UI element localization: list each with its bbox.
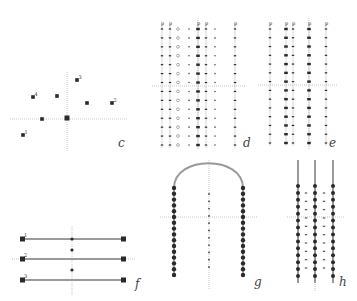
tick-marker [234, 144, 236, 145]
point-tag: 2 [114, 97, 117, 103]
tick-marker [196, 117, 200, 119]
bead [172, 244, 176, 248]
tick-marker [205, 109, 207, 110]
tick-marker [161, 127, 163, 128]
dot-marker [188, 144, 190, 146]
dot-marker [214, 91, 216, 93]
tick-marker [307, 37, 311, 39]
bead [241, 250, 245, 254]
tick-marker [307, 80, 311, 82]
tick-marker [234, 64, 236, 65]
bead [296, 232, 300, 236]
point-tag: p [292, 20, 295, 27]
tick-marker [269, 81, 271, 82]
center-dot [208, 266, 210, 268]
ring-marker [177, 63, 180, 66]
dot-marker [214, 37, 216, 39]
between-marker [305, 251, 307, 252]
dot-marker [188, 100, 190, 102]
tick-marker [307, 107, 311, 109]
bead [172, 273, 176, 277]
tick-marker [292, 72, 294, 73]
tick-marker [205, 28, 207, 29]
between-marker [323, 259, 325, 260]
ring-marker [177, 37, 180, 40]
tick-marker [284, 142, 288, 144]
tick-marker [196, 108, 200, 110]
tick-marker [169, 91, 171, 92]
tick-marker [284, 98, 288, 100]
point-tag: p [161, 20, 164, 27]
bead [241, 209, 245, 213]
dot-marker [214, 46, 216, 48]
tick-marker [205, 118, 207, 119]
panel-label-f: f [134, 277, 142, 291]
bead [296, 191, 300, 195]
dot-marker [188, 82, 190, 84]
rod-end-right [121, 278, 126, 283]
tick-marker [292, 55, 294, 56]
particle-marker [40, 117, 44, 121]
bead [313, 260, 317, 264]
tick-marker [205, 64, 207, 65]
tick-marker [284, 89, 288, 91]
tick-marker [325, 107, 327, 108]
bead [313, 253, 317, 257]
tick-marker [269, 90, 271, 91]
particle-marker [85, 101, 89, 105]
tick-marker [196, 126, 200, 128]
dot-marker [214, 100, 216, 102]
tick-marker [234, 100, 236, 101]
bead [296, 184, 300, 188]
tick-marker [205, 144, 207, 145]
between-marker [305, 242, 307, 243]
tick-marker [196, 90, 200, 92]
bead [313, 205, 317, 209]
bead [172, 186, 176, 190]
between-marker [305, 259, 307, 260]
tick-marker [169, 55, 171, 56]
bead [172, 250, 176, 254]
tick-marker [196, 28, 200, 30]
tick-marker [234, 73, 236, 74]
tick-marker [205, 37, 207, 38]
dot-marker [214, 117, 216, 119]
dot-marker [188, 46, 190, 48]
tick-marker [307, 28, 311, 30]
dot-marker [188, 91, 190, 93]
bead [331, 232, 335, 236]
bead [331, 219, 335, 223]
tick-marker [169, 100, 171, 101]
point-tag: 2 [24, 252, 27, 258]
ring-marker [177, 81, 180, 84]
tick-marker [307, 63, 311, 65]
tick-marker [205, 127, 207, 128]
dot-marker [214, 126, 216, 128]
center-dot [70, 268, 73, 271]
dot-marker [214, 135, 216, 137]
tick-marker [269, 55, 271, 56]
tick-marker [325, 72, 327, 73]
center-dot [208, 193, 210, 195]
bead [241, 244, 245, 248]
center-dot [208, 237, 210, 239]
tick-marker [269, 37, 271, 38]
tick-marker [161, 64, 163, 65]
rod-end-right [121, 237, 126, 242]
center-dot [208, 215, 210, 217]
bead [331, 260, 335, 264]
center-dot [208, 200, 210, 202]
tick-marker [269, 46, 271, 47]
tick-marker [269, 63, 271, 64]
tick-marker [234, 118, 236, 119]
panel-h [287, 160, 345, 292]
bead [296, 198, 300, 202]
tick-marker [325, 125, 327, 126]
bead [313, 267, 317, 271]
tick-marker [284, 54, 288, 56]
tick-marker [325, 116, 327, 117]
tick-marker [269, 72, 271, 73]
tick-marker [284, 133, 288, 135]
tick-marker [307, 142, 311, 144]
tick-marker [292, 107, 294, 108]
